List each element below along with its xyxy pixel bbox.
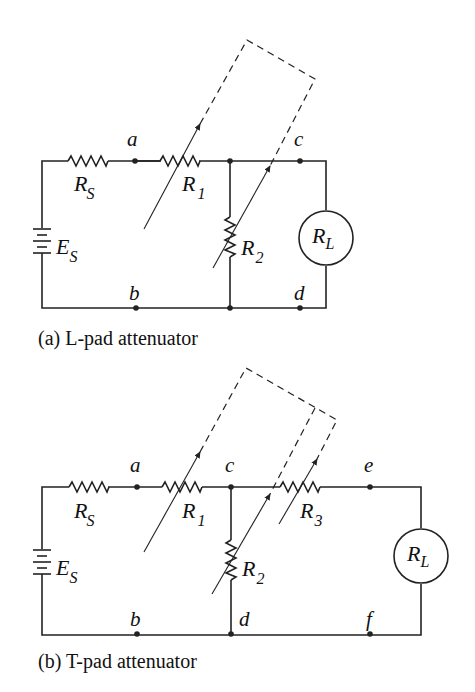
battery-es-icon xyxy=(33,544,51,574)
r3-label: R3 xyxy=(299,498,322,529)
wire xyxy=(199,161,326,210)
node-d-dot xyxy=(228,631,234,637)
node-f-dot xyxy=(367,631,373,637)
resistor-r2-icon xyxy=(226,540,236,580)
wire xyxy=(42,253,326,308)
r1-label: R1 xyxy=(181,171,205,202)
node-a-label: a xyxy=(130,453,141,477)
r2-label: R2 xyxy=(241,556,264,587)
gang-linkage-dashed xyxy=(270,408,315,494)
rs-label: RS xyxy=(73,498,94,529)
node-c-label: c xyxy=(294,127,304,151)
node-b-label: b xyxy=(129,281,140,305)
node-a-label: a xyxy=(127,127,138,151)
node-c-dot xyxy=(297,158,303,164)
caption-l-pad: (a) L-pad attenuator xyxy=(38,327,198,350)
node-b-dot xyxy=(133,305,139,311)
r1-label: R1 xyxy=(181,498,205,529)
wire xyxy=(42,487,69,544)
rs-label: RS xyxy=(73,171,94,202)
node-f-label: f xyxy=(366,607,375,631)
junction-dot xyxy=(227,305,233,311)
es-label: ES xyxy=(55,234,77,265)
node-c-label: c xyxy=(225,453,235,477)
node-c-dot xyxy=(228,484,234,490)
node-d-dot xyxy=(297,305,303,311)
resistor-rs-icon xyxy=(68,156,108,166)
rl-label: RL xyxy=(311,223,334,252)
node-b-dot xyxy=(134,631,140,637)
node-a-dot xyxy=(134,484,140,490)
node-e-dot xyxy=(367,484,373,490)
es-label: ES xyxy=(55,555,77,586)
junction-dot xyxy=(227,158,233,164)
t-pad-circuit: a b c d e f RS R1 R3 R2 ES RL xyxy=(33,368,448,637)
resistor-rs-icon xyxy=(69,482,109,492)
node-e-label: e xyxy=(364,453,373,477)
rl-label: RL xyxy=(406,541,429,570)
node-b-label: b xyxy=(130,607,141,631)
node-d-label: d xyxy=(294,281,305,305)
battery-es-icon xyxy=(33,223,51,253)
node-a-dot xyxy=(132,158,138,164)
wire xyxy=(320,487,421,528)
wire-left-top xyxy=(42,161,68,223)
node-d-label: d xyxy=(239,607,250,631)
caption-t-pad: (b) T-pad attenuator xyxy=(38,650,197,673)
gang-linkage-dashed xyxy=(200,368,337,459)
l-pad-circuit: a b c d RS R1 R2 ES RL xyxy=(33,40,353,311)
r2-label: R2 xyxy=(240,235,263,266)
